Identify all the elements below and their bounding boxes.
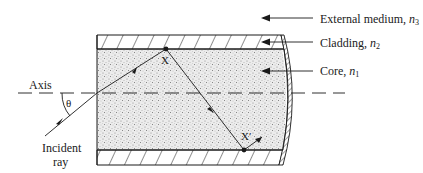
incident-ray-label-line1: Incident — [42, 142, 81, 154]
cladding-label: Cladding, n2 — [320, 37, 380, 51]
reflection-x-prime-label: X′ — [241, 131, 251, 142]
cladding-bottom — [97, 150, 283, 165]
cladding-text: Cladding, — [320, 36, 370, 50]
subscript: 3 — [415, 18, 419, 27]
axis-label: Axis — [29, 79, 52, 91]
core-text: Core, — [320, 64, 349, 78]
external-medium-label: External medium, n3 — [320, 13, 419, 27]
incident-ray-label-line2: ray — [53, 156, 68, 168]
theta-label: θ — [66, 98, 71, 109]
core-label: Core, n1 — [320, 65, 359, 79]
reflection-point-x-prime — [242, 148, 247, 153]
external-medium-text: External medium, — [320, 12, 409, 26]
cladding-top — [97, 35, 284, 49]
subscript: 1 — [355, 70, 359, 79]
subscript: 2 — [376, 42, 380, 51]
reflection-point-x — [164, 47, 169, 52]
core-region — [97, 49, 286, 150]
reflection-x-label: X — [161, 55, 169, 66]
fiber-diagram: External medium, n3 Cladding, n2 Core, n… — [0, 0, 423, 173]
